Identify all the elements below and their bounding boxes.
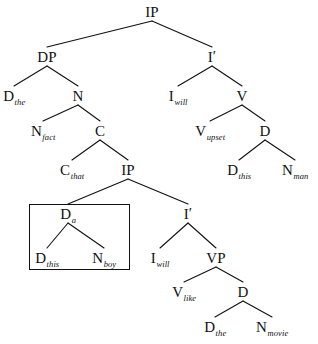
node-category-label: N: [31, 123, 42, 139]
node-subscript-label: like: [184, 292, 197, 302]
tree-branch-dp-to-d-the-top: [14, 66, 47, 86]
tree-node-n-boy-boxed: Nboy: [92, 251, 116, 266]
tree-node-ip-root: IP: [145, 5, 159, 20]
tree-branch-i-bar-top-to-i-will-top: [178, 66, 212, 86]
node-category-label: N: [256, 319, 267, 335]
tree-node-dp: DP: [37, 50, 57, 65]
tree-branch-vp-to-v-like: [184, 267, 216, 282]
node-subscript-label: upset: [207, 131, 225, 141]
node-category-label: DP: [37, 49, 57, 65]
node-category-label: D: [60, 206, 71, 222]
node-category-label: V: [236, 88, 247, 104]
node-category-label: V: [195, 123, 206, 139]
tree-branch-ip-root-to-i-bar-top: [152, 21, 212, 47]
tree-node-d-this-boxed: Dthis: [35, 251, 59, 266]
tree-node-v-upset: Vupset: [195, 124, 225, 139]
node-subscript-label: movie: [268, 327, 289, 337]
tree-branch-c-node-to-c-that: [72, 140, 100, 160]
node-category-label: VP: [206, 250, 226, 266]
tree-branch-ip-embedded-to-d-a-boxed: [68, 179, 128, 204]
tree-node-d-this-right: Dthis: [227, 163, 251, 178]
tree-node-v-top: V: [236, 89, 247, 104]
node-subscript-label: a: [72, 214, 76, 224]
tree-node-i-bar-low: I′: [184, 207, 193, 222]
tree-node-i-bar-top: I′: [208, 50, 217, 65]
tree-branch-v-top-to-v-upset: [210, 105, 242, 121]
tree-node-d-the-low: Dthe: [204, 320, 226, 335]
tree-branch-ip-root-to-dp: [47, 21, 152, 47]
tree-node-d-mid-right: D: [259, 124, 270, 139]
node-subscript-label: this: [239, 170, 252, 180]
tree-branch-n-top-to-c-node: [78, 105, 100, 121]
tree-node-n-man: Nman: [282, 163, 308, 178]
tree-node-n-fact: Nfact: [31, 124, 55, 139]
tree-branch-n-top-to-n-fact: [43, 105, 78, 121]
node-category-label: I: [151, 250, 156, 266]
node-subscript-label: fact: [42, 131, 55, 141]
node-subscript-label: the: [216, 327, 227, 337]
node-category-label: D: [259, 123, 270, 139]
tree-node-d-a-boxed: Da: [60, 207, 75, 222]
tree-branch-d-mid-right-to-n-man: [265, 140, 295, 160]
tree-node-i-will-top: Iwill: [169, 89, 187, 104]
tree-branch-d-low-right-to-n-movie: [243, 301, 272, 317]
tree-branch-vp-to-d-low-right: [216, 267, 243, 282]
node-category-label: N: [72, 88, 83, 104]
node-category-label: V: [172, 284, 183, 300]
node-subscript-label: that: [71, 170, 85, 180]
tree-node-v-like: Vlike: [172, 285, 196, 300]
tree-branch-ip-embedded-to-i-bar-low: [128, 179, 188, 204]
node-category-label: D: [227, 162, 238, 178]
tree-branch-i-bar-low-to-i-will-low: [160, 223, 188, 248]
node-category-label: C: [95, 123, 105, 139]
node-category-label: IP: [145, 4, 159, 20]
node-category-label: D: [35, 250, 46, 266]
node-subscript-label: will: [156, 258, 169, 268]
tree-branch-dp-to-n-top: [47, 66, 78, 86]
node-subscript-label: this: [47, 258, 60, 268]
tree-node-d-low-right: D: [237, 285, 248, 300]
node-category-label: I: [169, 88, 174, 104]
node-prime-marker: ′: [189, 205, 192, 221]
node-category-label: C: [60, 162, 70, 178]
node-subscript-label: man: [293, 170, 308, 180]
tree-branch-i-bar-low-to-vp: [188, 223, 216, 248]
tree-node-c-that: Cthat: [60, 163, 84, 178]
node-category-label: N: [282, 162, 293, 178]
tree-node-vp: VP: [206, 251, 226, 266]
tree-branch-c-node-to-ip-embedded: [100, 140, 128, 160]
node-category-label: N: [92, 250, 103, 266]
tree-node-ip-embedded: IP: [121, 163, 135, 178]
tree-node-n-top: N: [72, 89, 83, 104]
tree-node-c-node: C: [95, 124, 105, 139]
node-category-label: D: [237, 284, 248, 300]
tree-branch-d-mid-right-to-d-this-right: [239, 140, 265, 160]
node-category-label: D: [3, 88, 14, 104]
tree-node-n-movie: Nmovie: [256, 320, 288, 335]
tree-branch-i-bar-top-to-v-top: [212, 66, 242, 86]
tree-node-d-the-top: Dthe: [3, 89, 25, 104]
tree-branch-d-low-right-to-d-the-low: [215, 301, 243, 317]
tree-branch-v-top-to-d-mid-right: [242, 105, 265, 121]
node-subscript-label: the: [15, 96, 26, 106]
node-category-label: D: [204, 319, 215, 335]
node-subscript-label: boy: [104, 258, 117, 268]
node-category-label: IP: [121, 162, 135, 178]
node-subscript-label: will: [174, 96, 187, 106]
tree-node-i-will-low: Iwill: [151, 251, 169, 266]
node-prime-marker: ′: [213, 48, 216, 64]
syntax-tree-figure: IPDPI′DtheNIwillVNfactCVupsetDCthatIPDth…: [0, 0, 318, 344]
